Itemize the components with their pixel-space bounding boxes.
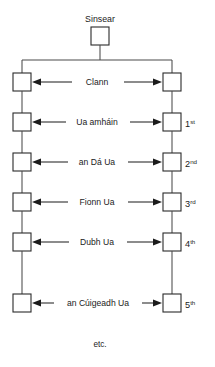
- arrow-head-right-ua-amhain: [153, 119, 162, 126]
- relation-label-fionn-ua: Fionn Ua: [80, 197, 115, 207]
- arrow-head-left-ua-amhain: [32, 119, 41, 126]
- ancestor-label: Sinsear: [85, 14, 115, 24]
- relation-label-an-cuigeadh-ua: an Cúigeadh Ua: [67, 298, 129, 308]
- arrow-head-left-dubh-ua: [32, 239, 41, 246]
- arrow-head-left-an-da-ua: [32, 159, 41, 166]
- arrow-head-right-clann: [153, 79, 162, 86]
- right-node-clann: [163, 73, 181, 91]
- ordinal-suffix-3: rd: [190, 198, 196, 205]
- relation-label-an-da-ua: an Dá Ua: [79, 157, 116, 167]
- relation-label-dubh-ua: Dubh Ua: [80, 237, 114, 247]
- ordinal-marker-5: 5th: [185, 299, 196, 311]
- ancestor-node: [91, 27, 109, 45]
- arrow-head-right-an-cuigeadh-ua: [153, 300, 162, 307]
- ordinal-marker-3: 3rd: [185, 198, 196, 210]
- ordinal-suffix-2: nd: [190, 158, 197, 165]
- arrow-head-left-an-cuigeadh-ua: [32, 300, 41, 307]
- left-node-dubh-ua: [13, 233, 31, 251]
- left-node-fionn-ua: [13, 193, 31, 211]
- kinship-diagram: Sinsear Clann Ua amháin 1st: [0, 0, 215, 367]
- right-node-an-da-ua: [163, 153, 181, 171]
- ordinal-suffix-4: th: [190, 238, 196, 245]
- left-node-ua-amhain: [13, 113, 31, 131]
- arrow-head-right-dubh-ua: [153, 239, 162, 246]
- right-node-an-cuigeadh-ua: [163, 294, 181, 312]
- ordinal-suffix-5: th: [190, 299, 196, 306]
- left-node-an-cuigeadh-ua: [13, 294, 31, 312]
- left-node-an-da-ua: [13, 153, 31, 171]
- ordinal-suffix-1: st: [190, 118, 195, 125]
- arrow-head-right-an-da-ua: [153, 159, 162, 166]
- relation-label-ua-amhain: Ua amháin: [76, 117, 118, 127]
- right-node-ua-amhain: [163, 113, 181, 131]
- arrow-head-right-fionn-ua: [153, 199, 162, 206]
- arrow-head-left-fionn-ua: [32, 199, 41, 206]
- ordinal-marker-2: 2nd: [185, 158, 198, 170]
- left-node-clann: [13, 73, 31, 91]
- relation-label-clann: Clann: [86, 77, 109, 87]
- continuation-label: etc.: [93, 340, 106, 349]
- kinship-diagram-canvas: Sinsear Clann Ua amháin 1st: [0, 0, 215, 367]
- ordinal-marker-4: 4th: [185, 238, 196, 250]
- ordinal-marker-1: 1st: [185, 118, 195, 130]
- right-node-dubh-ua: [163, 233, 181, 251]
- arrow-head-left-clann: [32, 79, 41, 86]
- right-node-fionn-ua: [163, 193, 181, 211]
